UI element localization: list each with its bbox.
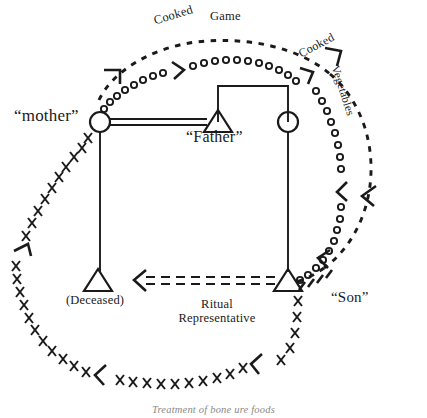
label-ritual-line1: Ritual xyxy=(201,297,233,311)
label-father: “Father” xyxy=(186,128,243,146)
label-ritual-representative: Ritual Representative xyxy=(162,297,272,325)
sibling-bracket xyxy=(218,86,288,122)
label-ritual-line2: Representative xyxy=(178,311,255,325)
label-mother: “mother” xyxy=(14,106,79,126)
label-deceased: (Deceased) xyxy=(66,293,124,308)
label-son: “Son” xyxy=(331,289,369,306)
bone-ure-x-path xyxy=(12,133,302,389)
node-mother xyxy=(90,112,110,132)
diagram-canvas xyxy=(0,0,427,418)
label-cooked-game-game: Game xyxy=(210,9,241,24)
cooked-game-circle-path xyxy=(101,57,347,283)
kinship-diagram: “mother” “Father” “Son” (Deceased) Cooke… xyxy=(0,0,427,418)
marriage-link xyxy=(110,119,207,125)
ritual-representative-arrow xyxy=(134,270,280,291)
figure-caption: Treatment of bone ure foods xyxy=(0,404,427,415)
node-deceased xyxy=(84,269,112,291)
